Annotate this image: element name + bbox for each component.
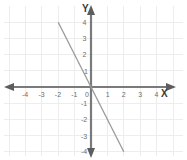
x-tick-label-2: 2 <box>122 91 126 98</box>
y-axis-bottom-arrow <box>87 148 95 158</box>
x-tick-label-neg3: -3 <box>38 91 44 98</box>
y-tick-label-2: 2 <box>83 51 87 58</box>
y-axis-name: Y <box>82 4 89 14</box>
x-tick-label-zero: 0 <box>85 91 89 98</box>
y-tick-label-4: 4 <box>83 19 87 26</box>
x-tick-label-1: 1 <box>106 91 110 98</box>
y-tick-label-neg3: -3 <box>81 133 87 140</box>
coordinate-plane-figure: -4 -3 -2 -1 0 1 2 3 4 4 3 2 1 -1 -2 -3 -… <box>0 0 187 160</box>
x-tick-label-neg4: -4 <box>22 91 28 98</box>
x-tick-label-neg2: -2 <box>55 91 61 98</box>
y-tick-label-neg2: -2 <box>81 116 87 123</box>
graph-canvas <box>0 0 187 160</box>
grid-lines <box>4 6 183 156</box>
y-tick-label-1: 1 <box>84 68 88 75</box>
x-tick-label-neg1: -1 <box>71 91 77 98</box>
x-tick-label-4: 4 <box>155 91 159 98</box>
y-tick-label-3: 3 <box>83 35 87 42</box>
y-tick-label-neg4: -4 <box>81 148 87 155</box>
x-axis-name: X <box>161 89 168 99</box>
x-tick-label-3: 3 <box>138 91 142 98</box>
y-tick-label-neg1: -1 <box>81 100 87 107</box>
